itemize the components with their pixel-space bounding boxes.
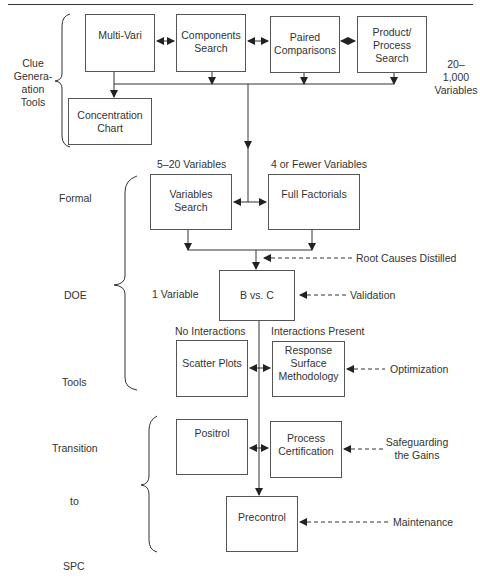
doe-label: DOE [64,289,87,302]
components-search-box: Components Search [176,14,246,72]
variables-4-fewer-label: 4 or Fewer Variables [271,158,367,171]
precontrol-label: Precontrol [227,511,297,524]
variables-search-label-1: Variables [151,188,231,201]
maintenance-label: Maintenance [393,516,453,529]
variables-5-20-label: 5–20 Variables [157,158,226,171]
full-factorials-box: Full Factorials [268,174,360,230]
process-cert-label-1: Process [271,432,341,445]
process-cert-label-2: Certification [271,445,341,458]
b-vs-c-label: B vs. C [220,289,294,302]
positrol-label: Positrol [177,427,247,440]
paired-comparisons-label-2: Comparisons [271,44,339,57]
scatter-plots-box: Scatter Plots [176,340,248,397]
response-surface-label-1: Response [273,344,344,357]
components-search-label-1: Components [177,29,245,42]
product-process-label-3: Search [358,52,426,65]
optimization-label: Optimization [390,363,448,376]
safeguarding-label-1: Safeguarding [382,436,452,449]
clue-label-1: Clue [8,57,58,70]
formal-label: Formal [59,192,92,205]
concentration-chart-label-2: Chart [69,122,151,135]
b-vs-c-box: B vs. C [219,270,295,321]
var-range-label-1: 20– [434,58,478,71]
product-process-search-box: Product/ Process Search [357,16,427,73]
clue-label-2: Genera- [8,70,58,83]
paired-comparisons-box: Paired Comparisons [270,16,340,73]
components-search-label-2: Search [177,42,245,55]
no-interactions-label: No Interactions [175,325,246,338]
to-label: to [70,495,79,508]
variables-search-box: Variables Search [150,174,232,230]
product-process-label-1: Product/ [358,26,426,39]
one-variable-label: 1 Variable [152,288,199,301]
variables-search-label-2: Search [151,201,231,214]
response-surface-label-3: Methodology [273,370,344,383]
paired-comparisons-label-1: Paired [271,31,339,44]
multi-vari-label: Multi-Vari [86,29,154,42]
response-surface-label-2: Surface [273,357,344,370]
variables-20-1000-label: 20– 1,000 Variables [434,58,478,97]
spc-label: SPC [63,560,85,573]
process-certification-box: Process Certification [270,421,342,478]
var-range-label-2: 1,000 [434,71,478,84]
var-range-label-3: Variables [434,84,478,97]
clue-generation-label: Clue Genera- ation Tools [8,57,58,109]
multi-vari-box: Multi-Vari [85,14,155,72]
interactions-present-label: Interactions Present [271,325,364,338]
clue-label-4: Tools [8,96,58,109]
root-causes-label: Root Causes Distilled [356,252,456,265]
full-factorials-label: Full Factorials [269,188,359,201]
product-process-label-2: Process [358,39,426,52]
clue-label-3: ation [8,83,58,96]
response-surface-box: Response Surface Methodology [272,341,345,397]
tools-label: Tools [62,376,87,389]
concentration-chart-box: Concentration Chart [68,98,152,145]
scatter-plots-label: Scatter Plots [177,357,247,370]
safeguarding-label: Safeguarding the Gains [382,436,452,462]
precontrol-box: Precontrol [226,496,298,552]
validation-label: Validation [350,289,395,302]
concentration-chart-label-1: Concentration [69,109,151,122]
positrol-box: Positrol [176,419,248,475]
safeguarding-label-2: the Gains [382,449,452,462]
transition-label: Transition [52,442,98,455]
